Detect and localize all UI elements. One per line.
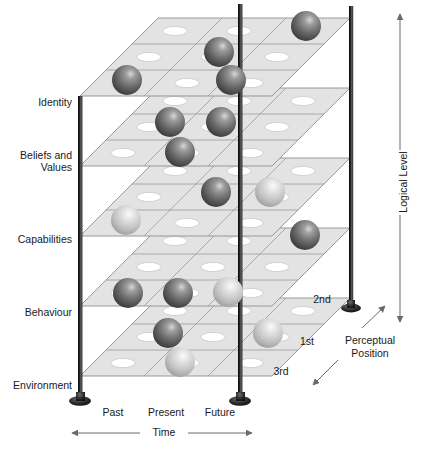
diagram-canvas: Identity Beliefs and Values Capabilities… (0, 0, 425, 450)
sphere-dark (216, 65, 246, 95)
sphere-dark (163, 278, 193, 308)
perceptual-label-2nd: 2nd (313, 293, 331, 305)
perceptual-axis-label-line1: Perceptual (345, 334, 395, 346)
level-label-environment: Environment (13, 379, 72, 391)
sphere-dark (165, 137, 195, 167)
sphere-dark (201, 177, 231, 207)
level-label-capabilities: Capabilities (18, 233, 72, 245)
pole-left (69, 96, 91, 406)
logical-level-axis: Logical Level (397, 14, 409, 322)
sphere-light (111, 205, 141, 235)
time-tick-present: Present (148, 406, 184, 418)
perceptual-label-1st: 1st (300, 335, 314, 347)
perceptual-arrow-downleft (313, 360, 338, 385)
perceptual-axis-label-line2: Position (351, 347, 389, 359)
level-label-values: Values (41, 161, 72, 173)
time-axis: Past Present Future Time (72, 406, 252, 438)
time-tick-future: Future (205, 406, 236, 418)
sphere-dark (206, 107, 236, 137)
sphere-dark (291, 11, 321, 41)
sphere-dark (113, 278, 143, 308)
sphere-dark (204, 37, 234, 67)
sphere-dark (153, 318, 183, 348)
level-label-identity: Identity (38, 96, 73, 108)
perceptual-arrow-upright (362, 306, 385, 328)
time-tick-past: Past (102, 406, 123, 418)
sphere-light (213, 277, 243, 307)
logical-level-axis-label: Logical Level (397, 151, 409, 212)
logical-levels-figure: Identity Beliefs and Values Capabilities… (0, 0, 425, 450)
sphere-dark (112, 65, 142, 95)
level-label-behaviour: Behaviour (25, 306, 73, 318)
sphere-light (165, 347, 195, 377)
level-label-beliefs: Beliefs and (20, 149, 72, 161)
sphere-light (253, 318, 283, 348)
sphere-dark (155, 107, 185, 137)
level-labels: Identity Beliefs and Values Capabilities… (13, 96, 73, 391)
perceptual-label-3rd: 3rd (273, 365, 288, 377)
time-axis-label: Time (153, 426, 176, 438)
sphere-light (255, 177, 285, 207)
sphere-dark (290, 220, 320, 250)
